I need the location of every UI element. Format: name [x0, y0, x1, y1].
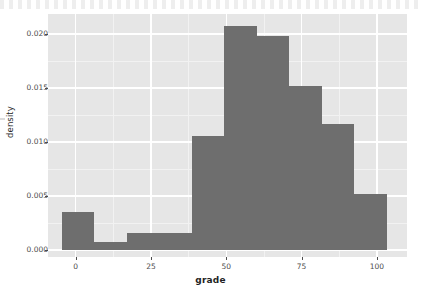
- histogram-bar: [354, 194, 387, 250]
- y-tick-label: 0.005: [4, 192, 48, 200]
- x-tick-mark: [76, 257, 77, 260]
- x-tick-mark: [151, 257, 152, 260]
- histogram-bar: [127, 233, 160, 250]
- x-axis-title: grade: [0, 275, 421, 285]
- y-tick-label: 0.015: [4, 84, 48, 92]
- gridline-major-vertical: [150, 14, 151, 257]
- x-axis: grade 0255075100: [0, 257, 421, 302]
- gridline-minor-vertical: [188, 14, 189, 257]
- y-tick-label: 0.020: [4, 30, 48, 38]
- x-tick-label: 50: [206, 262, 246, 271]
- x-tick-label: 25: [131, 262, 171, 271]
- x-tick-mark: [377, 257, 378, 260]
- y-tick-label: 0.000: [4, 246, 48, 254]
- histogram-bar: [289, 86, 322, 250]
- y-tick-label: 0.010: [4, 138, 48, 146]
- x-tick-label: 100: [357, 262, 397, 271]
- histogram-figure: density 0.0000.0050.0100.0150.020 grade …: [0, 0, 421, 302]
- histogram-bar: [94, 242, 127, 250]
- histogram-bar: [322, 124, 355, 250]
- histogram-bar: [62, 212, 95, 250]
- gridline-minor-vertical: [113, 14, 114, 257]
- histogram-bar: [257, 36, 290, 250]
- x-tick-mark: [226, 257, 227, 260]
- histogram-bar: [224, 26, 257, 250]
- histogram-bar: [159, 233, 192, 250]
- x-tick-mark: [302, 257, 303, 260]
- x-tick-label: 0: [56, 262, 96, 271]
- histogram-bar: [192, 136, 225, 250]
- plot-panel: [48, 14, 407, 257]
- x-tick-label: 75: [282, 262, 322, 271]
